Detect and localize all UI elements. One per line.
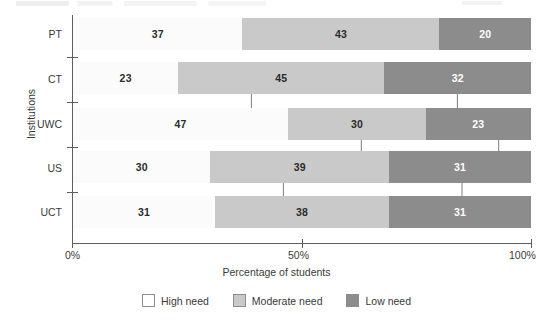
- legend-label: High need: [161, 295, 209, 307]
- legend-swatch-icon: [346, 294, 359, 307]
- chart-legend: High need Moderate need Low need: [0, 294, 553, 307]
- x-axis-tick-100: [531, 239, 532, 248]
- bar-row: 31 38 31: [73, 196, 531, 228]
- scan-artifact-top: [16, 1, 306, 6]
- y-tick-label-pt: PT: [0, 28, 62, 40]
- x-tick-label-50: 50%: [288, 249, 309, 261]
- bar-row: 30 39 31: [73, 151, 531, 183]
- legend-label: Low need: [365, 295, 411, 307]
- bar-row: 37 43 20: [73, 18, 531, 50]
- bar-segment-low: 20: [439, 18, 531, 50]
- bar-row: 47 30 23: [73, 108, 531, 140]
- bar-segment-high: 47: [73, 108, 288, 140]
- legend-item-high-need: High need: [142, 294, 209, 307]
- bar-segment-high: 30: [73, 151, 210, 183]
- legend-swatch-icon: [233, 294, 246, 307]
- bar-segment-low: 31: [389, 196, 531, 228]
- scan-artifact-top-right: [462, 1, 502, 5]
- bar-segment-moderate: 43: [242, 18, 439, 50]
- bar-segment-low: 23: [426, 108, 531, 140]
- x-tick-label-100: 100%: [509, 249, 536, 261]
- stacked-bar-chart-figure: PT CT UWC US UCT 0% 50% 100% Institution…: [0, 0, 553, 335]
- bar-row: 23 45 32: [73, 62, 531, 94]
- bar-segment-high: 37: [73, 18, 242, 50]
- bar-segment-moderate: 38: [215, 196, 389, 228]
- y-tick-label-uct: UCT: [0, 206, 62, 218]
- legend-label: Moderate need: [252, 295, 323, 307]
- x-axis-title: Percentage of students: [0, 266, 553, 278]
- bar-segment-moderate: 45: [178, 62, 384, 94]
- bar-segment-high: 31: [73, 196, 215, 228]
- bar-segment-low: 31: [389, 151, 531, 183]
- legend-item-low-need: Low need: [346, 294, 411, 307]
- bar-segment-low: 32: [384, 62, 531, 94]
- plot-area: 37 43 20 23 45 32 47 30 23 30 39 31 31 3…: [73, 16, 531, 243]
- legend-item-moderate-need: Moderate need: [233, 294, 323, 307]
- bar-segment-moderate: 39: [210, 151, 389, 183]
- y-axis-title: Institutions: [25, 54, 37, 174]
- x-tick-label-0: 0%: [65, 249, 80, 261]
- bar-segment-moderate: 30: [288, 108, 425, 140]
- bar-segment-high: 23: [73, 62, 178, 94]
- legend-swatch-icon: [142, 294, 155, 307]
